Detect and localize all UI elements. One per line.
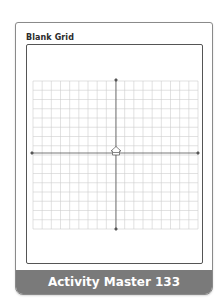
home-icon <box>111 147 121 156</box>
activity-card: Blank Grid Activity Master 133 <box>15 22 213 295</box>
page-title: Blank Grid <box>26 33 74 42</box>
grid-frame <box>26 44 203 264</box>
coordinate-grid <box>27 45 204 265</box>
footer-banner: Activity Master 133 <box>16 270 212 294</box>
